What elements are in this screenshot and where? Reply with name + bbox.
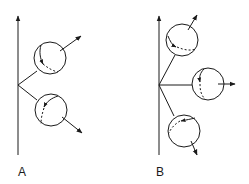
sphere-a-lower xyxy=(35,94,82,133)
panel-a xyxy=(18,16,82,155)
hidden-arc xyxy=(200,84,205,99)
rotation-arc-icon xyxy=(40,45,43,64)
rotation-arc-icon xyxy=(200,69,204,82)
rotation-arc-icon xyxy=(44,96,58,107)
hidden-arc xyxy=(177,47,196,50)
rotation-arc-icon xyxy=(181,118,195,121)
sphere-b-lower xyxy=(168,115,200,155)
link-a-lower xyxy=(18,85,37,100)
link-b-lower xyxy=(159,85,174,116)
panel-label-a: A xyxy=(18,166,26,178)
hidden-arc xyxy=(41,108,44,124)
hidden-arc xyxy=(43,64,58,72)
sphere-b-middle xyxy=(192,68,235,100)
panel-b xyxy=(159,15,235,155)
spin-axis-arrow xyxy=(60,36,81,51)
panel-label-b: B xyxy=(156,166,164,178)
sphere-b-upper xyxy=(166,15,198,56)
link-a-upper xyxy=(18,71,37,85)
sphere-a-upper xyxy=(34,36,81,74)
rotation-arc-icon xyxy=(168,36,176,47)
spin-axis-arrow xyxy=(62,117,82,133)
rotation-diagram xyxy=(0,0,249,184)
link-b-upper xyxy=(159,55,175,85)
